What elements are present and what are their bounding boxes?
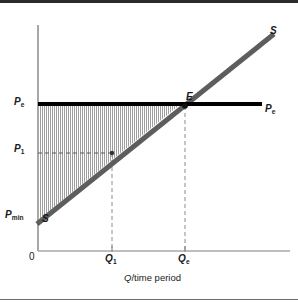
figure-bottom-border [0,299,298,300]
plot-area [0,3,298,299]
y-label-pe: Pe [14,97,24,107]
supply-curve-figure: Pe P1 Pmin S S E Pe Q1 Qe 0 Q/time perio… [0,0,298,302]
y-label-p1: P1 [14,144,24,154]
origin-label: 0 [29,252,35,262]
equilibrium-point-label: E [186,92,193,102]
q1-point-marker [110,151,114,155]
x-label-q1: Q1 [105,254,116,264]
x-axis-title: Q/time period [124,273,181,283]
supply-curve-start-tag: S [42,214,49,224]
x-label-qe: Qe [178,254,189,264]
supply-curve-end-tag: S [270,26,277,36]
price-line-tag: Pe [265,104,275,114]
plot-svg [0,3,298,299]
equilibrium-point-marker [182,103,188,109]
y-label-pmin: Pmin [5,210,23,220]
